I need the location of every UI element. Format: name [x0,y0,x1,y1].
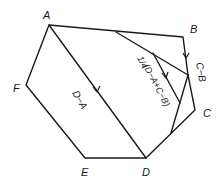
label-c-minus-b: C−B [194,61,208,83]
vertex-label-c: C [203,107,211,119]
vertex-label-e: E [81,166,89,178]
diagram-svg: A B C D E F D−A C−B 1/4 (D−A+C−B) [0,0,222,185]
label-average-vector: (D−A+C−B) [141,62,172,108]
label-d-minus-a: D−A [70,89,90,112]
vertex-label-a: A [42,9,50,21]
vertex-label-b: B [190,23,197,35]
vertex-label-f: F [13,82,21,94]
hexagon-vector-diagram: A B C D E F D−A C−B 1/4 (D−A+C−B) [0,0,222,185]
hexagon-outline [26,25,195,158]
vertex-label-d: D [142,166,150,178]
